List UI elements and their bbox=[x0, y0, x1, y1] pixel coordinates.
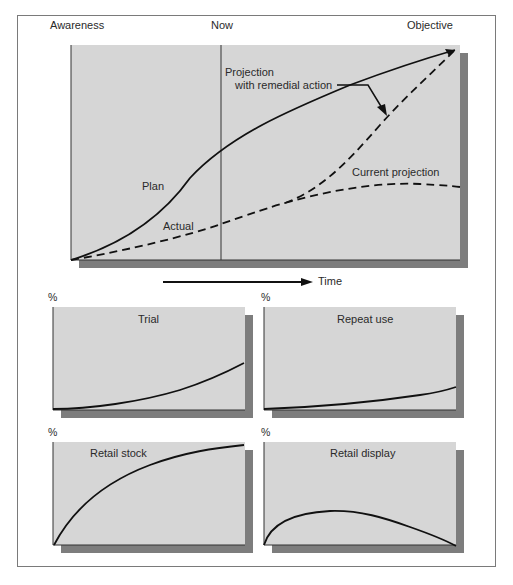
repeat-use-title: Repeat use bbox=[337, 313, 393, 326]
now-label: Now bbox=[211, 19, 233, 32]
awareness-label: Awareness bbox=[50, 19, 104, 32]
projection-label-line1: Projection bbox=[225, 66, 274, 79]
time-axis-arrow bbox=[163, 278, 313, 286]
retail-display-title: Retail display bbox=[330, 447, 395, 460]
current-projection-label: Current projection bbox=[352, 166, 439, 179]
projection-label-line2: with remedial action bbox=[235, 79, 332, 92]
retail-stock-chart bbox=[53, 442, 253, 553]
retail-stock-y-label: % bbox=[48, 426, 57, 438]
trial-title: Trial bbox=[138, 313, 159, 326]
retail-stock-title: Retail stock bbox=[90, 447, 147, 460]
actual-label: Actual bbox=[163, 220, 194, 233]
trial-y-label: % bbox=[48, 291, 57, 303]
time-arrowhead-icon bbox=[301, 278, 313, 286]
plan-label: Plan bbox=[142, 180, 164, 193]
time-label: Time bbox=[318, 275, 342, 288]
retail-display-y-label: % bbox=[261, 426, 270, 438]
repeat-use-y-label: % bbox=[261, 291, 270, 303]
objective-label: Objective bbox=[407, 19, 453, 32]
